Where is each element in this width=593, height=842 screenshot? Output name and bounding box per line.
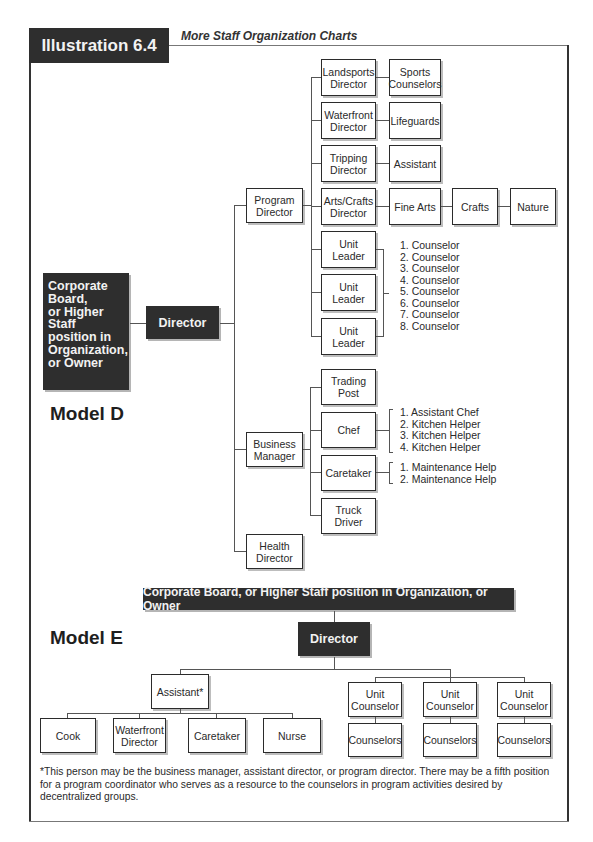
connector <box>334 611 335 622</box>
chef-staff-list: 1. Assistant Chef 2. Kitchen Helper 3. K… <box>400 407 481 453</box>
model-e-label: Model E <box>50 627 123 649</box>
counselors-box: Counselors <box>497 723 551 757</box>
connector <box>310 430 321 431</box>
nature-box: Nature <box>510 188 556 225</box>
unit-counselor-box: Unit Counselor <box>497 682 551 717</box>
connector <box>310 472 321 473</box>
connector <box>310 387 321 388</box>
connector <box>234 205 246 206</box>
unit-leader-box: Unit Leader <box>321 231 376 268</box>
trading-post-box: Trading Post <box>321 369 376 405</box>
connector <box>311 120 321 121</box>
sports-counselors-box: Sports Counselors <box>389 59 441 96</box>
connector <box>450 669 451 677</box>
waterfront-director-box: Waterfront Director <box>321 102 376 139</box>
chef-box: Chef <box>321 412 376 448</box>
frame-left-line <box>29 60 31 822</box>
connector <box>376 77 389 78</box>
counselors-box: Counselors <box>423 723 477 757</box>
connector <box>234 449 246 450</box>
connector <box>180 669 451 670</box>
connector <box>384 293 389 294</box>
frame-top-line <box>169 45 569 46</box>
connector <box>220 323 235 324</box>
connector <box>310 515 321 516</box>
model-d-top-box: Corporate Board, or Higher Staff positio… <box>43 273 129 390</box>
connector <box>498 206 510 207</box>
waterfront-director-box: Waterfront Director <box>113 718 166 753</box>
frame-right-line <box>567 45 569 822</box>
connector <box>311 249 321 250</box>
model-e-top-box: Corporate Board, or Higher Staff positio… <box>143 588 514 610</box>
connector <box>310 387 311 516</box>
business-manager-box: Business Manager <box>246 432 303 467</box>
cook-box: Cook <box>40 718 96 753</box>
unit-leader-bracket <box>376 249 384 337</box>
illustration-label: Illustration 6.4 <box>29 28 169 63</box>
page-subtitle: More Staff Organization Charts <box>181 29 357 43</box>
unit-counselor-box: Unit Counselor <box>423 682 477 717</box>
caretaker-staff-list: 1. Maintenance Help 2. Maintenance Help <box>400 462 496 485</box>
caretaker-box: Caretaker <box>321 455 376 491</box>
connector <box>234 551 246 552</box>
lifeguards-box: Lifeguards <box>389 102 441 139</box>
footnote: *This person may be the business manager… <box>40 766 560 804</box>
connector <box>376 163 389 164</box>
model-d-director-box: Director <box>146 306 219 339</box>
arts-crafts-director-box: Arts/Crafts Director <box>321 188 376 225</box>
assistant-box: Assistant* <box>151 674 209 709</box>
counselors-box: Counselors <box>348 723 402 757</box>
unit-leader-box: Unit Leader <box>321 274 376 311</box>
connector <box>130 323 146 324</box>
fine-arts-box: Fine Arts <box>389 188 441 225</box>
connector <box>311 336 321 337</box>
assistant-box: Assistant <box>389 145 441 182</box>
unit-leader-box: Unit Leader <box>321 318 376 355</box>
connector <box>376 206 389 207</box>
connector <box>311 292 321 293</box>
connector <box>67 713 293 714</box>
model-d-top-text: Corporate Board, or Higher Staff positio… <box>48 280 128 370</box>
model-d-label: Model D <box>50 403 124 425</box>
caretaker-bracket <box>389 462 393 484</box>
connector <box>334 657 335 669</box>
program-director-box: Program Director <box>246 188 303 223</box>
connector <box>376 120 389 121</box>
model-e-director-box: Director <box>298 622 370 656</box>
chef-bracket <box>389 409 393 453</box>
unit-counselor-box: Unit Counselor <box>348 682 402 717</box>
landsports-director-box: Landsports Director <box>321 59 376 96</box>
connector <box>234 205 235 552</box>
connector <box>441 206 452 207</box>
unit-leader-counselor-list: 1. Counselor 2. Counselor 3. Counselor 4… <box>400 240 460 332</box>
caretaker-box: Caretaker <box>188 718 246 753</box>
health-director-box: Health Director <box>246 534 303 569</box>
connector <box>311 206 321 207</box>
connector <box>311 163 321 164</box>
connector <box>303 205 311 206</box>
frame-bottom-line <box>29 821 569 822</box>
truck-driver-box: Truck Driver <box>321 498 376 534</box>
nurse-box: Nurse <box>263 718 321 753</box>
tripping-director-box: Tripping Director <box>321 145 376 182</box>
connector <box>376 472 389 473</box>
connector <box>376 430 389 431</box>
crafts-box: Crafts <box>452 188 498 225</box>
connector <box>311 77 321 78</box>
